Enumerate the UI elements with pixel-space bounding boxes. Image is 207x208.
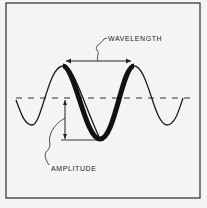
arrowhead-left-icon [66, 59, 71, 64]
arrowhead-right-icon [126, 59, 131, 64]
wave-diagram: WAVELENGTH AMPLITUDE [0, 0, 207, 208]
wavelength-label: WAVELENGTH [108, 35, 162, 42]
wave-highlighted-cycle [63, 66, 134, 139]
wavelength-leader [96, 38, 107, 61]
arrowhead-up-icon [63, 100, 67, 105]
amplitude-label: AMPLITUDE [51, 165, 96, 172]
arrowhead-down-icon [63, 134, 67, 139]
wave-thin-right [134, 66, 183, 125]
amplitude-leader [45, 118, 65, 165]
frame-border [6, 3, 200, 198]
